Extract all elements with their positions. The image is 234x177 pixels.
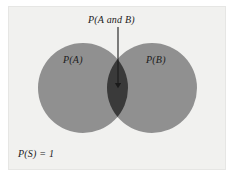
venn-diagram-figure: P(A and B) P(A) P(B) P(S) = 1 <box>0 0 234 177</box>
intersection-label: P(A and B) <box>88 14 135 25</box>
event-b-label: P(B) <box>146 54 166 65</box>
sample-space-label: P(S) = 1 <box>18 148 54 159</box>
event-a-label: P(A) <box>63 54 83 65</box>
